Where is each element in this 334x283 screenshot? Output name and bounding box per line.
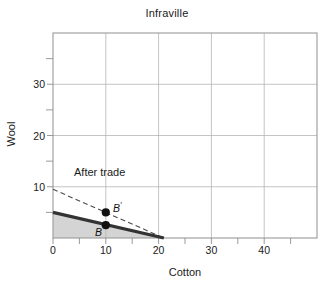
point-b-prime-mark: ′	[120, 200, 122, 209]
xtick-label-40: 40	[249, 244, 279, 256]
y-axis-title: Wool	[5, 104, 17, 164]
ytick-label-20: 20	[19, 130, 45, 142]
point-b-prime-label: B′	[113, 200, 122, 214]
ytick-label-10: 10	[19, 181, 45, 193]
xtick-label-10: 10	[91, 244, 121, 256]
point-b-label: B	[95, 226, 102, 238]
data-point-b	[102, 221, 110, 229]
ytick-label-30: 30	[19, 78, 45, 90]
plot-canvas	[0, 0, 334, 283]
point-b-prime-letter: B	[113, 202, 120, 214]
after-trade-annotation: After trade	[74, 166, 125, 178]
chart-figure: Infraville	[0, 0, 334, 283]
y-major-ticks	[47, 84, 53, 187]
data-point-b-prime	[102, 208, 110, 216]
x-axis-title: Cotton	[53, 266, 317, 278]
xtick-label-30: 30	[196, 244, 226, 256]
xtick-label-20: 20	[144, 244, 174, 256]
xtick-label-0: 0	[38, 244, 68, 256]
